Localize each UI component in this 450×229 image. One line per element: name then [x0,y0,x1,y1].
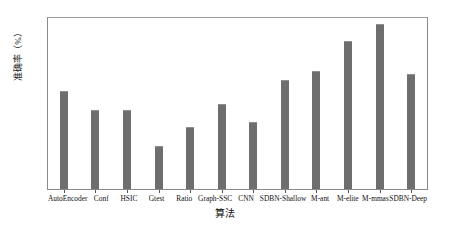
bar-slot [111,18,143,189]
x-axis-title: 算法 [0,205,450,220]
bar-slot [395,18,427,189]
x-tick-label: AutoEncoder [48,193,87,205]
bar [218,104,226,190]
bar-slot [143,18,175,189]
bar-slot [80,18,112,189]
bar-slot [364,18,396,189]
bar-slot [174,18,206,189]
bars-container [48,18,427,189]
x-tick-label: CNN [232,193,260,205]
x-tick-label: M-elite [334,193,362,205]
x-axis-tick-labels: AutoEncoderConfHSICGtestRatioGraph-SSCCN… [48,193,427,205]
bar [344,41,352,189]
x-tick-label: Graph-SSC [198,193,232,205]
y-axis-title: 准确率（%） [11,0,24,110]
x-tick-label: SDBN-Deep [389,193,427,205]
x-tick-label: Ratio [170,193,198,205]
x-tick-label: M-ant [306,193,334,205]
bar-slot [237,18,269,189]
x-tick-label: HSIC [115,193,143,205]
bar-slot [206,18,238,189]
bar [155,146,163,189]
bar [312,71,320,189]
bar [123,110,131,189]
bar [60,91,68,189]
bar [376,24,384,189]
bar-slot [301,18,333,189]
bar [91,110,99,189]
x-tick-label: M-mmas [362,193,390,205]
bar [249,122,257,189]
bar [281,80,289,189]
x-tick-label: SDBN-Shallow [260,193,306,205]
bar-slot [332,18,364,189]
bar [407,74,415,189]
x-tick-label: Gtest [143,193,171,205]
x-tick-label: Conf [87,193,115,205]
bar-slot [48,18,80,189]
bar-chart-figure: 准确率（%） 4550556065707580 AutoEncoderConfH… [0,0,450,229]
bar-slot [269,18,301,189]
bar [186,127,194,189]
